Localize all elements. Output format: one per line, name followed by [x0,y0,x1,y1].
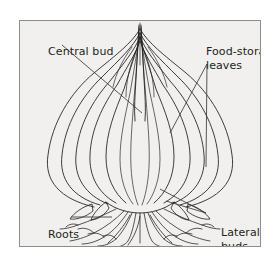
basal-plate-outline [106,202,174,213]
label-central-bud: Central bud [48,45,114,59]
central-bud-sheath-left [113,47,132,87]
root-12 [108,215,130,243]
leader-food-storage-b [206,64,207,167]
label-lateral-line2: buds [221,240,248,248]
leader-lines [62,45,207,217]
root-4 [116,213,136,246]
root-branch-3 [103,235,116,239]
root-branch-4 [164,235,177,239]
central-bud-shoot [113,23,167,121]
root-7 [148,213,182,246]
roots [60,209,220,246]
label-roots: Roots [48,228,79,242]
root-10 [60,209,116,229]
central-bud-sheath-right [148,47,167,87]
root-13 [150,215,172,243]
basal-plate [106,202,174,213]
root-14 [128,216,140,245]
label-food-storage-line2: leaves [206,59,242,72]
root-9 [156,211,210,241]
figure-panel: Central bud Food-storageleaves Roots Lat… [19,20,261,247]
root-6 [144,213,164,246]
root-8 [152,212,198,244]
root-3 [98,213,132,246]
label-lateral-line1: Lateral [221,226,260,239]
label-food-storage-line1: Food-storage [206,45,261,58]
root-branch-6 [186,228,202,233]
root-branch-1 [78,228,94,233]
leaf-layer-2-left [62,33,140,205]
label-lateral-buds: Lateralbuds [221,226,260,247]
label-food-storage-leaves: Food-storageleaves [206,45,261,72]
root-11 [164,209,220,229]
